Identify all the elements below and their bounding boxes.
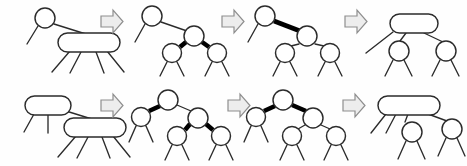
node-left-red xyxy=(132,108,151,127)
edge-left-red-stub-2 xyxy=(261,126,268,142)
bottom-arrow-1 xyxy=(101,94,123,117)
bottom-panel-2 xyxy=(129,90,233,160)
node-child-4-node xyxy=(58,33,120,52)
node-root xyxy=(273,90,293,110)
edge-left-red-stub-1 xyxy=(244,126,251,142)
node-grandchild-right-red xyxy=(212,127,231,146)
edge-child-stub-3 xyxy=(96,52,104,73)
right-arrow-icon xyxy=(345,10,367,33)
bottom-row xyxy=(24,90,465,160)
node-middle xyxy=(184,26,204,46)
edge-grandchild-right-stub-1 xyxy=(209,145,216,160)
node-parent-2-node xyxy=(35,8,55,28)
bottom-arrow-3 xyxy=(343,94,365,117)
node-left-red xyxy=(163,44,182,63)
edge-right-child-stub-2 xyxy=(335,62,342,76)
right-arrow-icon xyxy=(101,10,123,33)
node-parent-3-node xyxy=(25,96,71,115)
edge-child-stub-4 xyxy=(107,51,124,72)
edge-right-to-grandchild-left xyxy=(298,125,305,129)
edge-left-2-node-stub-2 xyxy=(404,60,412,76)
edge-child-stub-1 xyxy=(52,51,70,72)
node-grandchild-left xyxy=(283,127,302,146)
node-right-child xyxy=(321,44,340,63)
node-left-2-node xyxy=(402,122,422,142)
edge-right-red-stub-1 xyxy=(205,62,212,76)
node-right xyxy=(188,108,208,128)
edge-left-red-stub-1 xyxy=(160,62,167,76)
edge-grandchild-left-stub-1 xyxy=(165,145,172,160)
edge-child-stub-3 xyxy=(102,137,110,158)
node-parent xyxy=(142,6,162,26)
node-right-red xyxy=(303,108,323,128)
edge-middle-to-right-child xyxy=(315,44,324,46)
edge-grandchild-right-stub-2 xyxy=(226,145,233,160)
node-right-2-node xyxy=(442,119,462,139)
bottom-panel-4 xyxy=(371,96,465,159)
edge-right-to-grandchild-right xyxy=(206,124,213,130)
node-right-red xyxy=(208,44,227,63)
edge-right-red-stub-2 xyxy=(222,62,229,76)
edge-parent-to-right-2-node xyxy=(424,33,443,42)
edge-left-2-node-stub-1 xyxy=(398,141,406,159)
node-middle-red xyxy=(297,26,317,46)
edge-parent-left-stub xyxy=(135,24,145,42)
node-right-2-node xyxy=(436,41,456,61)
edge-right-2-node-stub-2 xyxy=(457,138,465,156)
edge-left-child-stub-2 xyxy=(290,62,297,76)
edge-grandchild-right-stub-2 xyxy=(341,145,348,160)
edge-child-stub-2 xyxy=(70,52,81,73)
edge-child-stub-2 xyxy=(77,137,88,158)
edge-grandchild-left-stub-2 xyxy=(182,145,189,160)
node-left-red xyxy=(247,108,266,127)
edge-middle-to-right-red xyxy=(202,42,209,47)
node-child-4-node xyxy=(64,118,126,137)
edge-root-to-left-red xyxy=(149,106,160,111)
edge-parent-to-middle xyxy=(274,21,300,31)
right-arrow-icon xyxy=(101,94,123,117)
node-grandchild-right xyxy=(327,127,346,146)
top-arrow-3 xyxy=(345,10,367,33)
node-root xyxy=(158,90,178,110)
edge-right-to-grandchild-left xyxy=(185,124,190,130)
edge-grandchild-right-stub-1 xyxy=(324,145,331,160)
figure-root xyxy=(0,0,467,166)
node-parent-4-node xyxy=(378,96,440,115)
edge-root-to-right-red xyxy=(292,105,306,111)
edge-root-to-right xyxy=(177,105,191,111)
edge-grandchild-left-stub-1 xyxy=(280,145,287,160)
transformation-diagram xyxy=(0,0,467,166)
edge-parent-stub-2 xyxy=(386,114,396,133)
edge-left-2-node-stub-2 xyxy=(417,141,425,159)
edge-right-to-grandchild-right xyxy=(321,125,330,129)
edge-right-child-stub-1 xyxy=(318,62,325,76)
node-left-2-node xyxy=(389,41,409,61)
edge-parent-stub-1 xyxy=(24,114,34,132)
edge-child-stub-1 xyxy=(58,136,76,157)
edge-grandchild-left-stub-2 xyxy=(297,145,304,160)
edge-root-to-left-red xyxy=(264,106,275,111)
edge-middle-to-left-child xyxy=(291,44,299,46)
node-parent xyxy=(255,6,275,26)
edge-left-2-node-stub-1 xyxy=(385,60,393,76)
edge-child-stub-4 xyxy=(113,136,130,157)
edge-right-2-node-stub-2 xyxy=(451,60,459,76)
bottom-panel-3 xyxy=(244,90,348,160)
edge-parent-left-stub xyxy=(27,26,38,44)
edge-parent-left-stub xyxy=(248,24,258,42)
top-row xyxy=(27,6,459,76)
edge-parent-to-middle xyxy=(161,22,187,31)
right-arrow-icon xyxy=(222,10,244,33)
top-arrow-1 xyxy=(101,10,123,33)
top-panel-2 xyxy=(135,6,229,76)
edge-parent-to-left-2-node xyxy=(400,33,406,41)
node-grandchild-left-red xyxy=(168,127,187,146)
top-arrow-2 xyxy=(222,10,244,33)
right-arrow-icon xyxy=(343,94,365,117)
top-panel-4 xyxy=(366,14,459,76)
edge-right-2-node-stub-1 xyxy=(438,138,446,156)
edge-left-red-stub-1 xyxy=(129,126,136,142)
node-parent-3-node xyxy=(390,14,438,33)
node-left-child xyxy=(276,44,295,63)
top-panel-3 xyxy=(248,6,342,76)
